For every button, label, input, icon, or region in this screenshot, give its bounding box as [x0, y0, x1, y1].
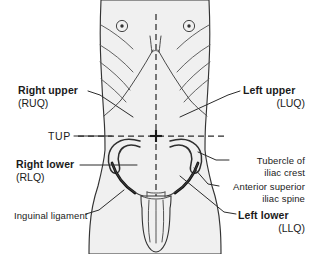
label-tup: TUP: [48, 130, 71, 143]
label-left-lower-quadrant-line1: Left lower: [238, 209, 305, 222]
label-inguinal-ligament-text: Inguinal ligament: [14, 210, 88, 222]
label-anterior-superior-iliac-spine-line2: iliac spine: [222, 193, 305, 205]
label-right-lower-quadrant-line1: Right lower: [16, 158, 74, 171]
label-right-lower-quadrant: Right lower (RLQ): [16, 158, 74, 184]
label-inguinal-ligament: Inguinal ligament: [14, 210, 88, 222]
label-tup-text: TUP: [48, 130, 71, 143]
label-tubercle-of-iliac-crest-line1: Tubercle of: [231, 155, 305, 167]
label-left-lower-quadrant: Left lower (LLQ): [238, 209, 305, 235]
label-anterior-superior-iliac-spine: Anterior superior iliac spine: [222, 181, 305, 204]
label-left-lower-quadrant-abbrev: (LLQ): [238, 222, 305, 235]
label-right-upper-quadrant-line1: Right upper: [18, 84, 78, 97]
label-tubercle-of-iliac-crest: Tubercle of iliac crest: [231, 155, 305, 178]
label-tubercle-of-iliac-crest-line2: iliac crest: [231, 167, 305, 179]
label-left-upper-quadrant-abbrev: (LUQ): [243, 97, 305, 110]
label-right-upper-quadrant: Right upper (RUQ): [18, 84, 78, 110]
abdominal-quadrants-figure: Right upper (RUQ) Left upper (LUQ) TUP T…: [0, 0, 309, 254]
label-right-lower-quadrant-abbrev: (RLQ): [16, 171, 74, 184]
label-anterior-superior-iliac-spine-line1: Anterior superior: [222, 181, 305, 193]
label-left-upper-quadrant-line1: Left upper: [243, 84, 305, 97]
label-right-upper-quadrant-abbrev: (RUQ): [18, 97, 78, 110]
label-left-upper-quadrant: Left upper (LUQ): [243, 84, 305, 110]
